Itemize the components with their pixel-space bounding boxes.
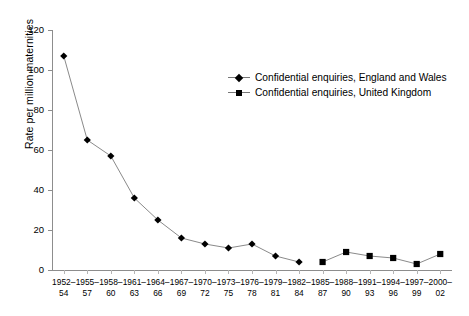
data-point-square (390, 255, 396, 261)
data-point-square (343, 249, 349, 255)
x-axis-tick (252, 270, 253, 274)
x-axis-tick (299, 270, 300, 274)
x-axis-tick (370, 270, 371, 274)
legend-label: Confidential enquiries, England and Wale… (255, 70, 447, 85)
y-axis-tick-label: 80 (18, 105, 44, 115)
x-axis-tick (205, 270, 206, 274)
y-axis-tick-label: 60 (18, 145, 44, 155)
legend-item-united-kingdom: Confidential enquiries, United Kingdom (228, 85, 447, 100)
chart-legend: Confidential enquiries, England and Wale… (228, 70, 447, 100)
x-axis-tick (346, 270, 347, 274)
data-point-diamond (107, 152, 114, 159)
legend-label: Confidential enquiries, United Kingdom (255, 85, 431, 100)
data-point-diamond (201, 240, 208, 247)
y-axis-tick-label: 100 (18, 65, 44, 75)
data-point-square (367, 253, 373, 259)
series-line (323, 252, 441, 264)
data-point-square (437, 251, 443, 257)
data-series-layer (52, 30, 452, 270)
x-axis-tick (228, 270, 229, 274)
x-axis-tick (323, 270, 324, 274)
x-axis-tick (134, 270, 135, 274)
x-axis-tick (64, 270, 65, 274)
legend-item-england-wales: Confidential enquiries, England and Wale… (228, 70, 447, 85)
y-axis-tick-label: 40 (18, 185, 44, 195)
diamond-marker-icon (228, 72, 250, 83)
plot-area: 020406080100120 1952–541955–571958–60196… (52, 30, 452, 270)
x-axis-tick (181, 270, 182, 274)
data-point-diamond (272, 252, 279, 259)
y-axis-tick-label: 0 (18, 265, 44, 275)
y-axis-tick (48, 270, 52, 271)
data-point-square (319, 259, 325, 265)
y-axis-tick-label: 20 (18, 225, 44, 235)
data-point-diamond (295, 258, 302, 265)
square-marker-icon (228, 87, 250, 98)
x-axis-tick (111, 270, 112, 274)
x-axis-tick (276, 270, 277, 274)
y-axis-tick-label: 120 (18, 25, 44, 35)
x-axis-tick (417, 270, 418, 274)
data-point-diamond (60, 52, 67, 59)
x-axis-tick (158, 270, 159, 274)
data-point-square (414, 261, 420, 267)
x-axis-tick (87, 270, 88, 274)
data-point-diamond (84, 136, 91, 143)
chart-container: Rate per million maternities 02040608010… (0, 0, 469, 316)
x-axis-tick (440, 270, 441, 274)
x-axis-tick-label: 2000–02 (419, 277, 461, 299)
data-point-diamond (248, 240, 255, 247)
x-axis-tick (393, 270, 394, 274)
data-point-diamond (225, 244, 232, 251)
